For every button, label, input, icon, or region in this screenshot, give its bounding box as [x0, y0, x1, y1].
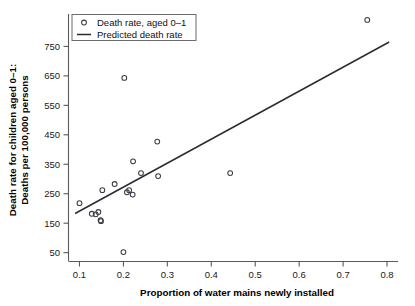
- x-axis-title: Proportion of water mains newly installe…: [140, 287, 334, 298]
- y-tick-label: 350: [44, 159, 60, 170]
- x-axis: 0.10.20.30.40.50.60.70.8: [69, 262, 399, 281]
- data-point: [100, 188, 105, 193]
- y-tick-label: 150: [44, 218, 60, 229]
- y-axis: 50150250350450550650750: [44, 14, 68, 261]
- x-tick-label: 0.1: [73, 269, 86, 280]
- data-point: [130, 192, 135, 197]
- x-tick-label: 0.2: [117, 269, 130, 280]
- legend-label: Death rate, aged 0–1: [97, 17, 186, 28]
- legend: Death rate, aged 0–1Predicted death rate: [72, 15, 196, 41]
- x-tick-label: 0.7: [336, 269, 349, 280]
- data-points-layer: [77, 17, 370, 254]
- data-point: [122, 76, 127, 81]
- x-tick-label: 0.3: [161, 269, 174, 280]
- y-tick-label: 450: [44, 129, 60, 140]
- data-point: [155, 139, 160, 144]
- y-axis-title-line1: Death rate for children aged 0–1:: [7, 64, 18, 216]
- data-point: [156, 174, 161, 179]
- regression-line: [75, 42, 389, 213]
- y-tick-label: 50: [49, 247, 60, 258]
- data-point: [77, 201, 82, 206]
- y-tick-label: 550: [44, 100, 60, 111]
- x-tick-label: 0.8: [380, 269, 393, 280]
- data-point: [131, 159, 136, 164]
- data-point: [121, 250, 126, 255]
- y-tick-label: 750: [44, 41, 60, 52]
- x-tick-label: 0.5: [249, 269, 262, 280]
- x-tick-label: 0.4: [205, 269, 218, 280]
- data-point: [365, 17, 370, 22]
- data-point: [139, 171, 144, 176]
- data-point: [228, 171, 233, 176]
- scatter-plot: 50150250350450550650750 0.10.20.30.40.50…: [0, 0, 415, 306]
- y-tick-label: 250: [44, 188, 60, 199]
- x-tick-label: 0.6: [293, 269, 306, 280]
- chart-figure: 50150250350450550650750 0.10.20.30.40.50…: [0, 0, 415, 306]
- x-tick-group: 0.10.20.30.40.50.60.70.8: [73, 262, 394, 281]
- y-tick-group: 50150250350450550650750: [44, 41, 68, 258]
- legend-label: Predicted death rate: [97, 29, 183, 40]
- y-tick-label: 650: [44, 70, 60, 81]
- y-axis-title-line2: Deaths per 100,000 persons: [19, 75, 30, 205]
- regression-line-layer: [75, 42, 389, 213]
- data-point: [112, 182, 117, 187]
